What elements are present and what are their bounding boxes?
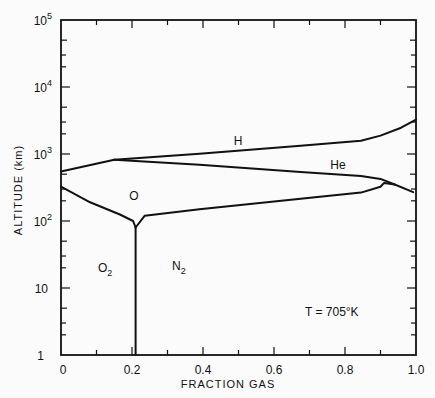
curve-he-o-boundary — [114, 160, 413, 192]
region-label-o: O — [129, 189, 138, 203]
boundary-curves — [61, 120, 416, 355]
curve-o-n2-boundary — [136, 183, 395, 228]
y-tick-label: 105 — [34, 11, 52, 28]
axis-ticks — [61, 20, 416, 355]
x-tick-label: 0.8 — [337, 363, 354, 377]
y-tick-label: 102 — [34, 212, 52, 229]
x-tick-label: 0.4 — [195, 363, 212, 377]
plot-frame — [61, 20, 416, 355]
curve-h-he-boundary — [114, 120, 416, 160]
y-tick-label: 10 — [35, 282, 49, 296]
y-tick-labels: 1 10 102 103 104 105 — [34, 11, 52, 363]
x-tick-label: 1.0 — [408, 363, 425, 377]
curve-left-o-he-boundary — [61, 160, 114, 172]
y-tick-label: 104 — [34, 78, 52, 95]
region-label-h: H — [234, 134, 243, 148]
x-tick-label: 0 — [60, 363, 67, 377]
altitude-composition-chart: 0 0.2 0.4 0.6 0.8 1.0 1 10 102 103 104 1… — [0, 0, 435, 398]
region-label-o2: O2 — [98, 261, 112, 278]
x-tick-label: 0.6 — [266, 363, 283, 377]
x-tick-labels: 0 0.2 0.4 0.6 0.8 1.0 — [60, 363, 425, 377]
y-tick-label: 1 — [37, 349, 44, 363]
y-tick-label: 103 — [34, 145, 52, 162]
y-axis-title: ALTITUDE (km) — [12, 145, 24, 235]
curve-o-o2-boundary — [61, 187, 136, 228]
x-tick-label: 0.2 — [124, 363, 141, 377]
temperature-annotation: T = 705°K — [305, 305, 359, 319]
x-axis-title: FRACTION GAS — [181, 378, 276, 390]
region-label-n2: N2 — [172, 259, 186, 276]
region-label-he: He — [330, 158, 346, 172]
